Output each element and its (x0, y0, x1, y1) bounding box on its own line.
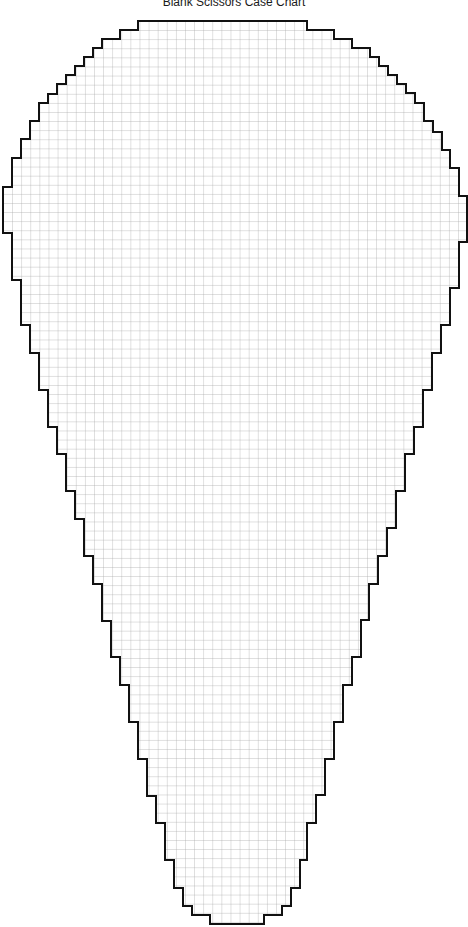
grid-cells (0, 0, 468, 927)
scissors-case-grid-chart (0, 0, 468, 927)
